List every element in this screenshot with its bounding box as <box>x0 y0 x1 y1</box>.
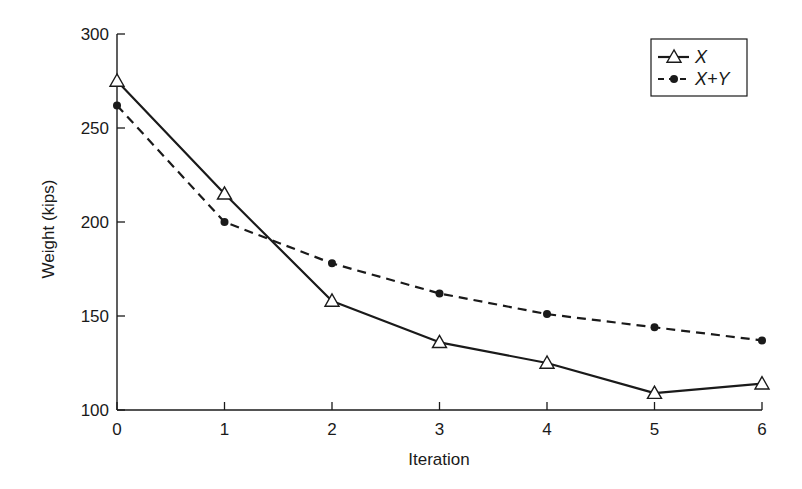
y-tick-label: 250 <box>81 119 109 138</box>
circle-marker <box>436 289 444 297</box>
x-tick-label: 4 <box>542 420 551 439</box>
y-tick-label: 300 <box>81 25 109 44</box>
x-tick-label: 2 <box>327 420 336 439</box>
circle-marker <box>758 336 766 344</box>
x-axis-label: Iteration <box>408 450 469 469</box>
legend-label: X <box>694 47 708 67</box>
y-tick-label: 150 <box>81 307 109 326</box>
series-x-plus-y <box>113 101 766 344</box>
x-tick-label: 3 <box>435 420 444 439</box>
triangle-marker <box>110 74 124 86</box>
circle-marker <box>113 101 121 109</box>
line-chart: 1001502002503000123456 XX+Y Weight (kips… <box>0 0 802 489</box>
x-tick-label: 1 <box>220 420 229 439</box>
y-tick-label: 200 <box>81 213 109 232</box>
x-tick-label: 0 <box>112 420 121 439</box>
x-tick-label: 6 <box>757 420 766 439</box>
circle-marker <box>221 218 229 226</box>
y-axis-label: Weight (kips) <box>39 180 58 279</box>
y-tick-label: 100 <box>81 401 109 420</box>
legend: XX+Y <box>651 39 747 96</box>
circle-marker <box>651 323 659 331</box>
circle-marker <box>328 259 336 267</box>
triangle-marker <box>755 377 769 389</box>
circle-marker <box>543 310 551 318</box>
legend-label: X+Y <box>694 69 732 89</box>
circle-marker <box>670 75 678 83</box>
series-line <box>117 105 762 340</box>
x-tick-label: 5 <box>650 420 659 439</box>
series-layer <box>110 74 769 398</box>
series-x <box>110 74 769 398</box>
